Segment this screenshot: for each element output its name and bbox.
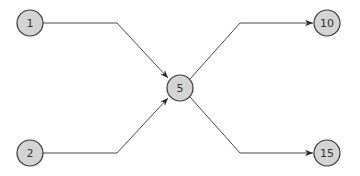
edge-1-to-5	[43, 23, 168, 78]
node-2[interactable]: 2	[17, 140, 43, 166]
edge-5-to-10	[190, 23, 313, 79]
graph-svg: 1 2 5 10 15	[0, 0, 360, 176]
node-1[interactable]: 1	[17, 10, 43, 36]
diagram-canvas: 1 2 5 10 15	[0, 0, 360, 176]
edge-5-to-15	[190, 97, 313, 153]
node-10[interactable]: 10	[314, 10, 340, 36]
node-label: 10	[320, 17, 334, 30]
node-label: 5	[177, 82, 184, 95]
node-5[interactable]: 5	[167, 75, 193, 101]
node-15[interactable]: 15	[314, 140, 340, 166]
node-label: 2	[27, 147, 34, 160]
edge-2-to-5	[43, 98, 168, 153]
node-label: 15	[320, 147, 334, 160]
node-label: 1	[27, 17, 34, 30]
